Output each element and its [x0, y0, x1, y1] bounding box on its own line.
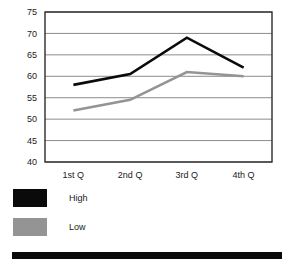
- legend-item-high: High: [13, 188, 173, 208]
- chart-legend: HighLow: [13, 188, 173, 246]
- y-axis-tick-label: 65: [27, 50, 37, 60]
- chart-page: 4045505560657075 1st Q2nd Q3rd Q4th Q Hi…: [0, 0, 293, 267]
- y-axis-tick-label: 55: [27, 93, 37, 103]
- plot-canvas: 4045505560657075 1st Q2nd Q3rd Q4th Q: [0, 0, 293, 185]
- y-axis-tick-label: 40: [27, 157, 37, 167]
- x-axis-tick-label: 2nd Q: [118, 170, 143, 180]
- y-axis-tick-label: 60: [27, 71, 37, 81]
- y-axis-tick-label: 50: [27, 114, 37, 124]
- x-axis-tick-labels: 1st Q2nd Q3rd Q4th Q: [63, 170, 255, 180]
- y-axis-tick-label: 45: [27, 136, 37, 146]
- legend-label-high: High: [69, 194, 88, 203]
- legend-swatch-high: [13, 189, 47, 207]
- y-axis-tick-labels: 4045505560657075: [27, 7, 37, 167]
- footer-rule: [12, 252, 282, 259]
- legend-label-low: Low: [69, 223, 86, 232]
- line-chart-figure: 4045505560657075 1st Q2nd Q3rd Q4th Q: [0, 0, 293, 185]
- x-axis-tick-label: 3rd Q: [176, 170, 199, 180]
- y-axis-tick-label: 70: [27, 29, 37, 39]
- x-axis-tick-label: 1st Q: [63, 170, 85, 180]
- y-axis-tick-label: 75: [27, 7, 37, 17]
- x-axis-tick-label: 4th Q: [233, 170, 255, 180]
- legend-item-low: Low: [13, 217, 173, 237]
- legend-swatch-low: [13, 218, 47, 236]
